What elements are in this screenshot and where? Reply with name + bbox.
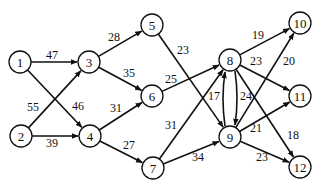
edge-weight-label: 24 (240, 89, 252, 103)
node-label: 8 (227, 53, 234, 68)
network-diagram: 4746553928353127232531341724192318202123… (0, 0, 324, 190)
edge-9-to-11 (239, 102, 289, 131)
edge-weight-label: 20 (283, 54, 295, 68)
edge-weight-label: 28 (108, 30, 120, 44)
edge-weight-label: 19 (252, 28, 264, 42)
edge-weight-label: 25 (165, 72, 177, 86)
node-label: 9 (227, 130, 234, 145)
edge-weight-label: 27 (123, 138, 135, 152)
edge-8-to-9 (235, 71, 237, 125)
node-1: 1 (9, 51, 31, 73)
network-graph: 4746553928353127232531341724192318202123… (0, 0, 324, 190)
node-label: 10 (294, 16, 307, 31)
edge-3-to-5 (98, 31, 141, 56)
node-11: 11 (289, 85, 311, 107)
node-label: 12 (294, 160, 307, 175)
node-label: 2 (18, 129, 25, 144)
edge-weight-label: 39 (46, 136, 58, 150)
edge-weight-label: 35 (123, 66, 135, 80)
edge-weight-label: 23 (177, 43, 189, 57)
node-label: 6 (149, 89, 156, 104)
node-label: 4 (87, 129, 94, 144)
node-9: 9 (219, 126, 241, 148)
node-8: 8 (219, 49, 241, 71)
node-label: 3 (86, 55, 93, 70)
node-6: 6 (141, 85, 163, 107)
node-12: 12 (289, 156, 311, 178)
node-4: 4 (79, 125, 101, 147)
edge-weight-label: 55 (27, 100, 39, 114)
node-label: 1 (17, 55, 24, 70)
edge-4-to-7 (100, 141, 142, 163)
node-label: 7 (150, 161, 157, 176)
edge-3-to-6 (99, 67, 142, 90)
edge-weight-label: 47 (46, 48, 58, 62)
node-7: 7 (142, 157, 164, 179)
node-2: 2 (10, 125, 32, 147)
edge-9-to-8 (223, 72, 225, 126)
edge-weight-label: 34 (192, 150, 204, 164)
edge-weight-label: 21 (250, 121, 262, 135)
edge-weight-label: 31 (110, 101, 122, 115)
edge-weight-label: 18 (287, 128, 299, 142)
node-5: 5 (141, 14, 163, 36)
edge-weight-label: 31 (165, 118, 177, 132)
edge-weight-label: 17 (208, 89, 220, 103)
node-10: 10 (289, 12, 311, 34)
edge-weight-label: 46 (72, 99, 84, 113)
node-label: 11 (294, 89, 307, 104)
edge-weight-label: 23 (256, 150, 268, 164)
node-3: 3 (78, 51, 100, 73)
node-label: 5 (149, 18, 156, 33)
edge-weight-label: 23 (250, 54, 262, 68)
